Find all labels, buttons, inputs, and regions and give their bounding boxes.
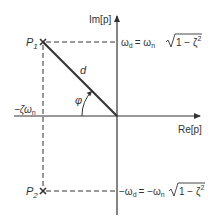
svg-text:−ωd= −ωn: −ωd= −ωn [119, 186, 165, 198]
imag-axis-label: Im[p] [89, 14, 111, 25]
pole-p1-marker [40, 39, 46, 45]
svg-text:1 − ζ2: 1 − ζ2 [176, 35, 201, 49]
real-axis-label: Re[p] [178, 124, 202, 135]
angle-arc [82, 91, 92, 116]
pole-diagram: Im[p] Re[p] P1 P2 d φ −ζωn ωd= ωn 1 − ζ2… [0, 0, 215, 222]
lower-equation: −ωd= −ωn 1 − ζ2 [119, 183, 205, 198]
distance-label: d [80, 64, 87, 76]
p2-label: P2 [26, 185, 38, 200]
upper-equation: ωd= ωn 1 − ζ2 [121, 34, 202, 49]
p1-label: P1 [26, 36, 38, 51]
real-part-label: −ζωn [14, 104, 36, 116]
angle-label: φ [75, 94, 82, 106]
pole-p2-marker [40, 188, 46, 194]
svg-text:1 − ζ2: 1 − ζ2 [179, 184, 204, 198]
svg-text:ωd= ωn: ωd= ωn [121, 37, 155, 49]
